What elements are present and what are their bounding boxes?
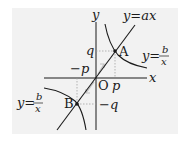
tick-p: p <box>112 78 121 93</box>
origin-label: O <box>98 78 109 93</box>
point-a-label: A <box>118 44 129 59</box>
svg-text:b: b <box>36 91 42 102</box>
svg-text:y=: y= <box>16 95 35 110</box>
hyperbola-line-diagram: y x O y=ax A B q −p p −q y= b x y= b x <box>0 0 187 143</box>
line-label: y=ax <box>122 8 157 23</box>
tick-neg-q: −q <box>99 97 118 112</box>
tick-neg-p: −p <box>70 61 90 76</box>
svg-text:x: x <box>35 103 41 114</box>
svg-text:y=: y= <box>141 48 160 63</box>
point-a <box>113 49 117 53</box>
svg-text:b: b <box>162 44 168 55</box>
svg-text:x: x <box>161 56 167 67</box>
x-axis-label: x <box>149 70 157 85</box>
y-axis-label: y <box>91 7 100 22</box>
tick-q: q <box>86 43 94 58</box>
point-b <box>75 102 79 106</box>
point-b-label: B <box>64 96 74 111</box>
